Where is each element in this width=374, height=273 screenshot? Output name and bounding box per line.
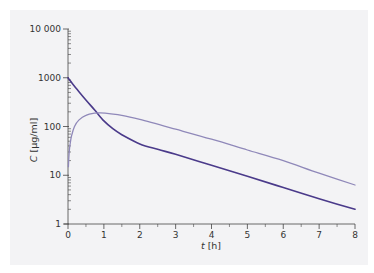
x-tick-label: 7: [316, 230, 322, 240]
concentration-time-chart: 110100100010 000012345678 t [h] C [µg/ml…: [0, 0, 374, 273]
dark-curve: [68, 78, 355, 210]
x-axis-unit: [h]: [205, 240, 221, 251]
y-tick-label: 100: [44, 122, 61, 132]
x-tick-label: 3: [173, 230, 179, 240]
axes: 110100100010 000012345678: [30, 24, 359, 240]
data-series: [68, 78, 355, 210]
x-tick-label: 6: [280, 230, 286, 240]
y-tick-label: 10 000: [30, 24, 62, 34]
light-curve: [68, 113, 355, 185]
x-tick-label: 1: [101, 230, 107, 240]
x-axis-title: t [h]: [201, 240, 221, 251]
y-axis-unit: [µg/ml]: [28, 118, 39, 156]
x-tick-label: 5: [245, 230, 251, 240]
x-tick-label: 0: [65, 230, 71, 240]
x-tick-label: 2: [137, 230, 143, 240]
y-tick-label: 1000: [38, 73, 61, 83]
y-tick-label: 10: [50, 170, 62, 180]
x-tick-label: 8: [352, 230, 358, 240]
y-axis-title: C [µg/ml]: [28, 118, 39, 162]
x-tick-label: 4: [209, 230, 215, 240]
y-tick-label: 1: [55, 219, 61, 229]
